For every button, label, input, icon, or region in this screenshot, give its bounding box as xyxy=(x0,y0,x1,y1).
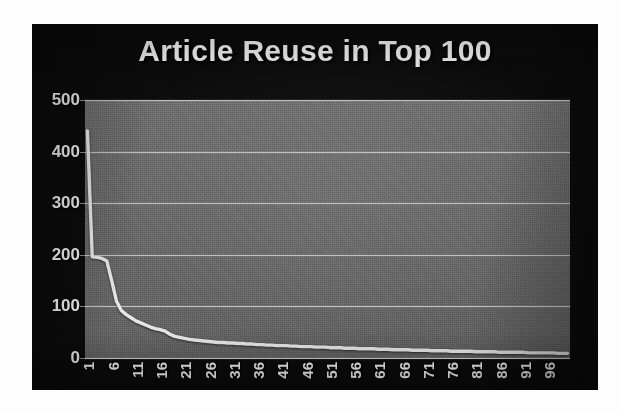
x-tick-label-86: 86 xyxy=(493,362,510,379)
x-tick-label-26: 26 xyxy=(202,362,219,379)
x-tick-label-46: 46 xyxy=(299,362,316,379)
y-tick-label-0: 0 xyxy=(71,348,80,368)
y-tick-mark-0 xyxy=(80,358,85,359)
y-tick-label-200: 200 xyxy=(52,245,80,265)
gridline-y-0 xyxy=(85,358,570,359)
x-tick-label-21: 21 xyxy=(177,362,194,379)
y-tick-label-100: 100 xyxy=(52,296,80,316)
x-tick-label-36: 36 xyxy=(250,362,267,379)
x-tick-label-11: 11 xyxy=(129,362,146,378)
y-tick-mark-400 xyxy=(80,152,85,153)
x-tick-label-1: 1 xyxy=(80,362,97,370)
y-tick-label-300: 300 xyxy=(52,193,80,213)
x-tick-label-31: 31 xyxy=(226,362,243,379)
y-tick-mark-300 xyxy=(80,203,85,204)
y-tick-label-400: 400 xyxy=(52,142,80,162)
x-axis-tick-labels: 16111621263136414651566166717681869196 xyxy=(85,362,570,390)
y-tick-label-500: 500 xyxy=(52,90,80,110)
x-tick-label-61: 61 xyxy=(371,362,388,379)
x-tick-label-16: 16 xyxy=(153,362,170,379)
series-chart-svg xyxy=(85,100,570,358)
x-tick-label-76: 76 xyxy=(444,362,461,379)
chart-frame: Article Reuse in Top 100 500400300200100… xyxy=(32,24,598,390)
y-tick-mark-200 xyxy=(80,255,85,256)
x-tick-label-91: 91 xyxy=(517,362,534,379)
x-tick-label-81: 81 xyxy=(468,362,485,379)
x-tick-label-6: 6 xyxy=(105,362,122,370)
x-tick-label-71: 71 xyxy=(420,362,437,379)
y-tick-mark-500 xyxy=(80,100,85,101)
series-line-article-reuse xyxy=(87,131,567,353)
x-tick-label-41: 41 xyxy=(274,362,291,379)
plot-area xyxy=(85,100,570,358)
x-tick-label-66: 66 xyxy=(396,362,413,379)
x-tick-label-56: 56 xyxy=(347,362,364,379)
x-tick-label-96: 96 xyxy=(541,362,558,379)
chart-screenshot: Article Reuse in Top 100 500400300200100… xyxy=(0,0,622,414)
x-tick-label-51: 51 xyxy=(323,362,340,379)
y-tick-mark-100 xyxy=(80,306,85,307)
chart-title: Article Reuse in Top 100 xyxy=(32,34,598,68)
y-axis-tick-labels: 5004003002001000 xyxy=(32,100,80,358)
